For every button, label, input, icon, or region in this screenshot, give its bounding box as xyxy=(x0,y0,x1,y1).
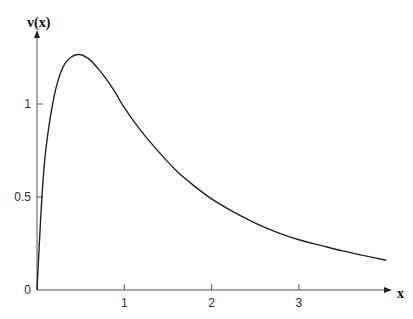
chart-container: 12300.51 v(x) x xyxy=(0,0,413,319)
x-axis-arrow-icon xyxy=(384,287,392,293)
y-tick-label: 0.5 xyxy=(14,190,31,204)
x-tick-label: 3 xyxy=(296,296,303,310)
y-axis-arrow-icon xyxy=(34,30,40,38)
x-tick-label: 2 xyxy=(208,296,215,310)
y-axis-label: v(x) xyxy=(27,15,51,31)
x-tick-label: 1 xyxy=(121,296,128,310)
x-axis-label: x xyxy=(397,286,404,301)
axes xyxy=(34,30,392,293)
data-line xyxy=(37,55,386,290)
ticks: 12300.51 xyxy=(14,97,302,310)
y-tick-label: 0 xyxy=(24,283,31,297)
y-tick-label: 1 xyxy=(24,97,31,111)
plot-area: 12300.51 v(x) x xyxy=(0,0,413,319)
